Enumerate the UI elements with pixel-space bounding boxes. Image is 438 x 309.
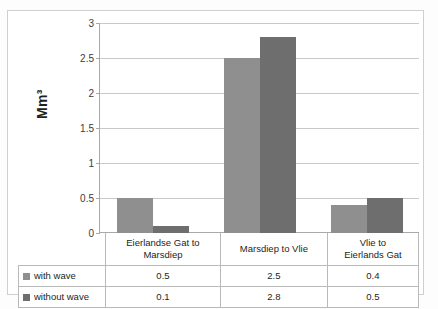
category-header-1-line-0: Marsdiep to Vlie [222,243,326,255]
bar-series-0-category-0[interactable] [117,198,153,233]
bar-group-1 [207,23,314,233]
value-series-0-category-0: 0.5 [106,266,221,287]
value-series-1-category-1: 2.8 [220,287,327,308]
y-axis-title: Mm³ [34,89,50,119]
table-row-categories: Eierlandse Gat to Marsdiep Marsdiep to V… [19,233,419,266]
chart-frame: Mm³ 00.511.522.53 Eierlandse Gat to Mars… [7,10,424,295]
category-header-2-line-1: Eierlands Gat [329,249,417,261]
legend-swatch-icon-series-1 [23,294,30,301]
y-tick-label-1: 1 [88,158,94,169]
plot-area: 00.511.522.53 [99,23,419,233]
bar-series-1-category-2[interactable] [367,198,403,233]
legend-label-series-0: with wave [34,270,76,281]
table-row-series-0: with wave 0.5 2.5 0.4 [19,266,419,287]
category-header-2: Vlie to Eierlands Gat [327,233,418,266]
value-series-0-category-2: 0.4 [327,266,418,287]
category-header-0-line-1: Marsdiep [107,249,219,261]
legend-swatch-icon-series-0 [23,273,30,280]
y-tick-label-3: 3 [88,18,94,29]
bar-group-2 [313,23,420,233]
legend-item-without-wave: without wave [19,287,106,308]
bar-series-0-category-1[interactable] [224,58,260,233]
chart-data-table: Eierlandse Gat to Marsdiep Marsdiep to V… [18,233,419,308]
legend-item-with-wave: with wave [19,266,106,287]
table-corner-cell [19,233,106,266]
category-header-0: Eierlandse Gat to Marsdiep [106,233,221,266]
value-series-1-category-2: 0.5 [327,287,418,308]
value-series-0-category-1: 2.5 [220,266,327,287]
value-series-1-category-0: 0.1 [106,287,221,308]
category-header-0-line-0: Eierlandse Gat to [107,237,219,249]
category-header-1: Marsdiep to Vlie [220,233,327,266]
bar-group-0 [100,23,207,233]
y-tick-label-2.5: 2.5 [80,53,94,64]
bar-series-0-category-2[interactable] [331,205,367,233]
y-tick-label-0.5: 0.5 [80,193,94,204]
legend-label-series-1: without wave [34,291,89,302]
y-tick-label-1.5: 1.5 [80,123,94,134]
y-tick-label-2: 2 [88,88,94,99]
bar-series-1-category-1[interactable] [260,37,296,233]
table-row-series-1: without wave 0.1 2.8 0.5 [19,287,419,308]
category-header-2-line-0: Vlie to [329,237,417,249]
bar-series-1-category-0[interactable] [153,226,189,233]
